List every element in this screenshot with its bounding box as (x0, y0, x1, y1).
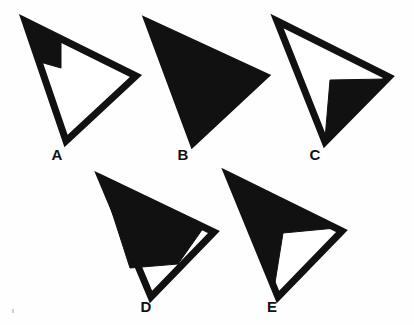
shape-c-label: C (310, 146, 321, 163)
shape-a-label: A (52, 146, 63, 163)
shape-b-label: B (178, 146, 189, 163)
scan-speck (12, 309, 14, 313)
triangles-figure: A B C D E (0, 0, 414, 325)
shape-e-label: E (267, 298, 277, 315)
figure-root: A B C D E (0, 0, 414, 325)
shape-d-label: D (141, 298, 152, 315)
